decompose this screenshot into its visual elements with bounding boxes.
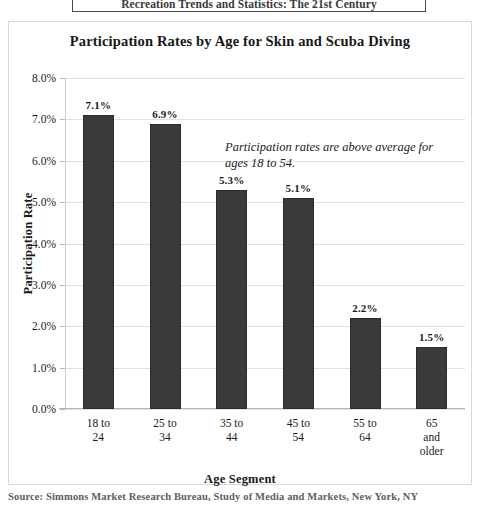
plot-area: 0.0%1.0%2.0%3.0%4.0%5.0%6.0%7.0%8.0%7.1%…	[65, 78, 465, 409]
gridline	[65, 202, 465, 203]
gridline	[65, 326, 465, 327]
bar-value-label: 5.3%	[219, 174, 245, 186]
y-axis-tick-label: 6.0%	[32, 155, 56, 167]
y-axis-tick-label: 2.0%	[32, 320, 56, 332]
gridline	[65, 244, 465, 245]
bar-value-label: 7.1%	[86, 99, 112, 111]
x-axis-tick-label: 25 to 34	[153, 416, 176, 444]
bar	[416, 347, 447, 409]
y-axis-tick-label: 8.0%	[32, 72, 56, 84]
bar-value-label: 2.2%	[352, 302, 378, 314]
bar-value-label: 5.1%	[286, 182, 312, 194]
x-axis-tick-label: 65 and older	[420, 416, 444, 458]
gridline	[65, 409, 465, 410]
bar	[150, 124, 181, 409]
bar	[83, 115, 114, 409]
chart-title: Participation Rates by Age for Skin and …	[9, 33, 471, 50]
y-axis-tick	[60, 326, 65, 327]
y-axis-tick-label: 3.0%	[32, 279, 56, 291]
y-axis-tick-label: 1.0%	[32, 362, 56, 374]
x-axis-title: Age Segment	[9, 472, 471, 487]
gridline	[65, 368, 465, 369]
y-axis-tick	[60, 244, 65, 245]
bar-group: 7.1%	[83, 99, 114, 409]
book-page-header-text: Recreation Trends and Statistics: The 21…	[73, 0, 425, 10]
y-axis-tick-label: 5.0%	[32, 196, 56, 208]
y-axis-tick	[60, 285, 65, 286]
y-axis-tick	[60, 78, 65, 79]
source-note: Source: Simmons Market Research Bureau, …	[8, 491, 474, 502]
bar-value-label: 6.9%	[152, 108, 178, 120]
y-axis-tick	[60, 119, 65, 120]
bar-group: 2.2%	[350, 302, 381, 409]
x-axis-line	[59, 408, 465, 409]
bar	[350, 318, 381, 409]
gridline	[65, 285, 465, 286]
y-axis-tick	[60, 202, 65, 203]
bar-group: 5.3%	[216, 174, 247, 409]
y-axis-tick	[60, 161, 65, 162]
x-axis-tick-label: 45 to 54	[287, 416, 310, 444]
chart-annotation: Participation rates are above average fo…	[225, 140, 440, 171]
bar-group: 6.9%	[150, 108, 181, 409]
y-axis-tick	[60, 409, 65, 410]
chart-frame: Participation Rates by Age for Skin and …	[8, 21, 472, 485]
y-axis-tick-label: 0.0%	[32, 403, 56, 415]
bar-group: 5.1%	[283, 182, 314, 409]
gridline	[65, 78, 465, 79]
bar	[216, 190, 247, 409]
bar-group: 1.5%	[416, 331, 447, 409]
y-axis-tick	[60, 368, 65, 369]
book-page-header: Recreation Trends and Statistics: The 21…	[72, 0, 426, 12]
gridlines	[65, 78, 465, 409]
x-axis-tick-label: 18 to 24	[87, 416, 110, 444]
y-axis-line	[65, 78, 66, 409]
x-axis-tick-label: 55 to 64	[353, 416, 376, 444]
bar-value-label: 1.5%	[419, 331, 445, 343]
y-axis-tick-label: 7.0%	[32, 113, 56, 125]
bar	[283, 198, 314, 409]
x-axis-tick-label: 35 to 44	[220, 416, 243, 444]
y-axis-tick-label: 4.0%	[32, 238, 56, 250]
gridline	[65, 119, 465, 120]
